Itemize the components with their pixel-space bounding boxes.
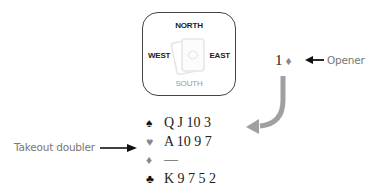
arrows-overlay bbox=[0, 0, 383, 195]
curved-arrow-icon bbox=[246, 76, 283, 134]
arrow-right-icon bbox=[100, 144, 137, 152]
arrow-left-icon bbox=[305, 56, 324, 64]
